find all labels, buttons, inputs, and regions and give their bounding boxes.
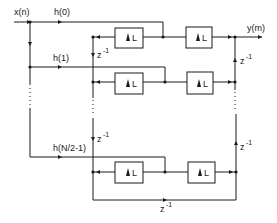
output-label: y(m): [247, 23, 265, 33]
coef-h1: h(1): [53, 53, 69, 63]
svg-text:L: L: [132, 168, 137, 178]
svg-text:z: z: [240, 142, 245, 152]
up-arrow-icon: [126, 33, 202, 176]
svg-text:-1: -1: [246, 53, 252, 60]
input-label: x(n): [14, 7, 30, 17]
svg-text:-1: -1: [103, 131, 109, 138]
svg-text:z: z: [97, 134, 102, 144]
svg-text:L: L: [202, 33, 207, 43]
svg-text:L: L: [132, 79, 137, 89]
svg-text:z: z: [240, 56, 245, 66]
delay-label: z -1: [160, 201, 172, 214]
svg-text:L: L: [132, 33, 137, 43]
svg-text:z: z: [160, 204, 165, 214]
delay-label: z -1: [240, 53, 252, 66]
delay-label: z -1: [240, 139, 252, 152]
diagram-canvas: x(n) h(0) h(1) h(N/2-1) y(m) L L L L L L…: [0, 0, 277, 223]
delay-label: z -1: [97, 47, 109, 60]
coef-h0: h(0): [54, 7, 70, 17]
delay-label: z -1: [97, 131, 109, 144]
svg-text:L: L: [204, 168, 209, 178]
svg-text:-1: -1: [166, 201, 172, 208]
svg-text:-1: -1: [246, 139, 252, 146]
svg-text:-1: -1: [103, 47, 109, 54]
svg-text:L: L: [203, 79, 208, 89]
svg-text:z: z: [97, 50, 102, 60]
upsampler-3b: [188, 162, 215, 183]
coef-hN: h(N/2-1): [53, 143, 86, 153]
